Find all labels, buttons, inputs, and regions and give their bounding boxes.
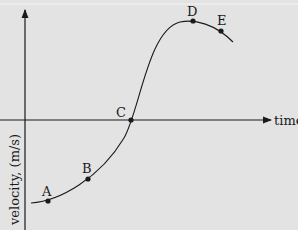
point-d [190,18,195,23]
point-label-b: B [82,161,92,176]
point-label-e: E [217,13,227,28]
point-a [45,198,50,203]
x-axis-label: time [274,113,298,128]
point-label-c: C [116,105,126,120]
point-e [218,28,223,33]
point-label-d: D [187,4,197,19]
point-b [85,176,90,181]
velocity-time-diagram: time velocity, (m/s) ABCDE [0,0,298,230]
point-c [128,117,133,122]
velocity-curve [31,21,233,203]
point-label-a: A [41,184,52,199]
y-axis-label: velocity, (m/s) [7,134,22,226]
